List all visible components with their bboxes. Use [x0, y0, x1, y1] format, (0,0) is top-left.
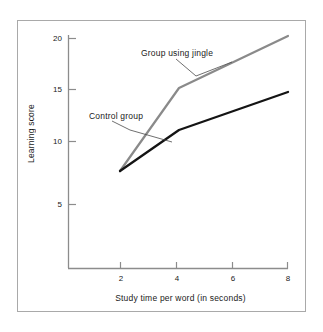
y-tick-label-15: 15	[46, 85, 62, 94]
annotation-group-using-jingle: Group using jingle	[141, 48, 213, 58]
series-line-control-group	[120, 92, 288, 171]
x-tick-label-2: 2	[119, 274, 123, 283]
x-tick-label-6: 6	[231, 274, 235, 283]
y-tick-label-10: 10	[46, 137, 62, 146]
x-tick-label-8: 8	[286, 274, 290, 283]
y-axis-ticks	[68, 39, 76, 205]
x-tick-label-4: 4	[175, 274, 179, 283]
y-axis-title: Learning score	[26, 104, 40, 163]
annotation-control-group: Control group	[89, 111, 143, 121]
y-tick-label-5: 5	[46, 200, 62, 209]
x-axis-title: Study time per word (in seconds)	[68, 293, 293, 303]
chart-figure: 20 15 10 5 2 4 6 8 Learning score Study …	[0, 0, 323, 332]
y-tick-label-20: 20	[46, 34, 62, 43]
